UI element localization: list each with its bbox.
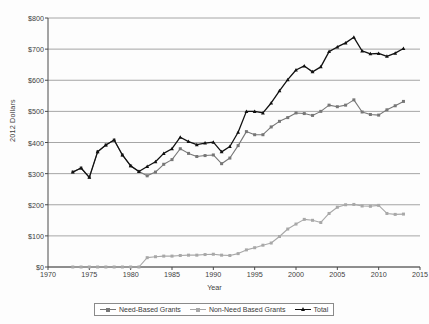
data-point [319, 110, 322, 113]
data-point [187, 254, 190, 257]
data-point [352, 203, 355, 206]
data-point [328, 104, 331, 107]
legend-item[interactable]: Non-Need Based Grants [190, 306, 286, 313]
data-point [113, 266, 116, 269]
line-chart: 2012 Dollars $0$100$200$300$400$500$600$… [0, 0, 429, 324]
data-point [344, 203, 347, 206]
data-point [71, 266, 74, 269]
data-point [253, 133, 256, 136]
data-point [171, 158, 174, 161]
data-point [162, 163, 165, 166]
data-point [336, 206, 339, 209]
data-point [154, 255, 157, 258]
data-point [187, 152, 190, 155]
data-point [402, 47, 406, 51]
data-point [278, 235, 281, 238]
data-point [336, 105, 339, 108]
data-point [344, 104, 347, 107]
data-point [236, 130, 240, 134]
data-point [228, 157, 231, 160]
data-point [270, 125, 273, 128]
data-point [253, 246, 256, 249]
legend-label: Total [314, 306, 329, 313]
data-point [352, 98, 355, 101]
data-point [303, 218, 306, 221]
data-point [228, 254, 231, 257]
data-point [311, 219, 314, 222]
data-point [385, 212, 388, 215]
data-point [121, 266, 124, 269]
data-point [361, 110, 364, 113]
data-point [195, 254, 198, 257]
legend-item[interactable]: Need-Based Grants [100, 306, 181, 313]
legend-marker-icon [295, 306, 311, 313]
data-point [212, 153, 215, 156]
data-point [96, 266, 99, 269]
data-point [261, 133, 264, 136]
data-point [302, 64, 306, 68]
data-point [220, 254, 223, 257]
data-point [377, 114, 380, 117]
legend-marker-icon [100, 306, 116, 313]
plot-area [0, 0, 429, 324]
data-point [369, 113, 372, 116]
data-point [137, 266, 140, 269]
data-point [245, 248, 248, 251]
data-point [394, 104, 397, 107]
data-point [295, 223, 298, 226]
data-point [204, 253, 207, 256]
data-point [178, 135, 182, 139]
data-point [88, 266, 91, 269]
data-point [385, 108, 388, 111]
data-point [146, 174, 149, 177]
chart-legend: Need-Based GrantsNon-Need Based GrantsTo… [94, 303, 334, 316]
data-point [220, 162, 223, 165]
data-point [237, 252, 240, 255]
data-point [171, 255, 174, 258]
data-point [295, 111, 298, 114]
legend-item[interactable]: Total [295, 306, 329, 313]
data-point [204, 154, 207, 157]
legend-marker-icon [190, 306, 206, 313]
data-point [361, 204, 364, 207]
data-point [394, 213, 397, 216]
data-point [286, 116, 289, 119]
data-point [261, 244, 264, 247]
data-point [146, 256, 149, 259]
data-point [377, 204, 380, 207]
data-point [328, 212, 331, 215]
data-point [352, 35, 356, 39]
data-point [104, 266, 107, 269]
data-point [402, 100, 405, 103]
data-point [303, 112, 306, 115]
data-point [311, 114, 314, 117]
data-point [237, 144, 240, 147]
data-point [278, 120, 281, 123]
data-point [245, 130, 248, 133]
data-point [154, 171, 157, 174]
data-point [162, 255, 165, 258]
data-point [80, 266, 83, 269]
data-point [129, 266, 132, 269]
data-point [270, 242, 273, 245]
legend-label: Need-Based Grants [119, 306, 181, 313]
legend-label: Non-Need Based Grants [209, 306, 286, 313]
data-point [319, 221, 322, 224]
data-point [179, 254, 182, 257]
data-point [402, 213, 405, 216]
data-point [286, 228, 289, 231]
data-point [179, 147, 182, 150]
data-point [212, 253, 215, 256]
data-point [369, 205, 372, 208]
data-point [195, 155, 198, 158]
